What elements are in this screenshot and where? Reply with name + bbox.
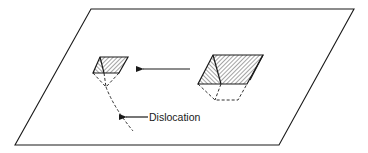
diagram-canvas: Dislocation — [0, 0, 368, 153]
dislocation-line — [106, 87, 133, 131]
large-pit-hidden-base — [198, 84, 247, 100]
surface-plane — [15, 9, 354, 145]
small-pit-hidden-edge — [106, 73, 119, 87]
dislocation-label: Dislocation — [149, 111, 201, 123]
small-etch-pit — [93, 57, 128, 87]
large-etch-pit — [198, 55, 263, 100]
large-pit-hidden-edge — [215, 84, 221, 100]
